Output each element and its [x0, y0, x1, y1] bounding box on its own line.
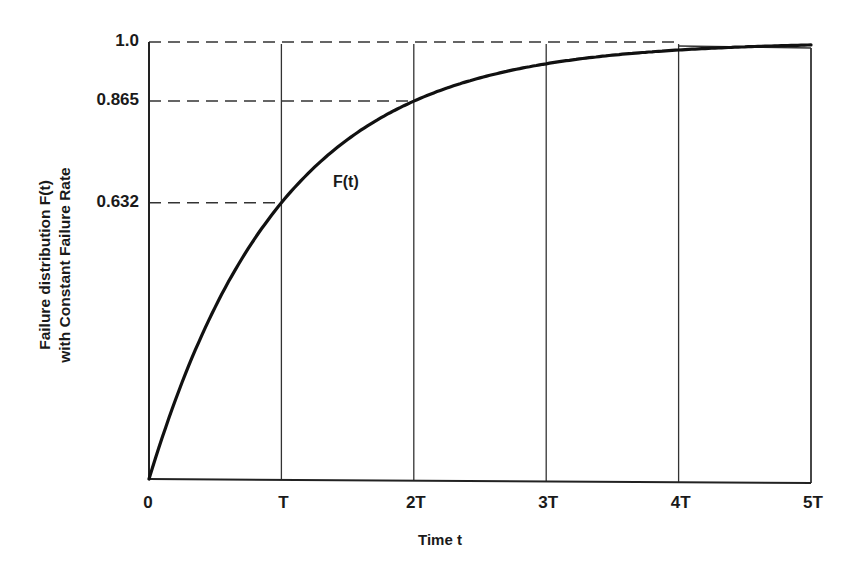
- chart-plot-area: [0, 0, 847, 570]
- vertical-gridlines: [281, 44, 811, 483]
- x-axis-title: Time t: [418, 531, 462, 548]
- y-axis-title-line1: Failure distribution F(t): [35, 167, 55, 363]
- dashed-reference-lines: [149, 42, 811, 203]
- x-axis-line: [149, 479, 811, 483]
- y-tick-label: 1.0: [59, 31, 139, 51]
- x-tick-label: 0: [118, 493, 178, 513]
- y-axis-title-line2: with Constant Failure Rate: [55, 167, 75, 363]
- x-tick-label: 3T: [518, 493, 578, 513]
- x-tick-label: 5T: [783, 493, 843, 513]
- y-tick-label: 0.865: [59, 90, 139, 110]
- failure-distribution-curve: [149, 45, 811, 479]
- x-tick-label: T: [253, 493, 313, 513]
- x-tick-label: 4T: [651, 493, 711, 513]
- axes: [149, 42, 811, 483]
- curve-label: F(t): [333, 173, 359, 191]
- x-tick-label: 2T: [386, 493, 446, 513]
